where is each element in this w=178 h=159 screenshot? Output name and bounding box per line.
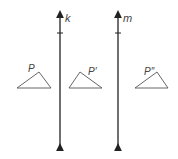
triangle-p: P — [17, 63, 51, 88]
triangle-p-label: P — [28, 63, 35, 74]
line-m: m — [115, 12, 132, 147]
triangle-p-prime: P′ — [69, 66, 102, 88]
line-k-label: k — [65, 12, 71, 24]
reflection-diagram: k m P P′ P″ — [0, 0, 178, 159]
line-k: k — [57, 12, 71, 147]
triangle-p-prime-label: P′ — [88, 66, 98, 77]
triangle-p-double-prime: P″ — [135, 66, 168, 88]
line-m-label: m — [123, 12, 132, 24]
triangle-p-double-prime-label: P″ — [144, 66, 155, 77]
